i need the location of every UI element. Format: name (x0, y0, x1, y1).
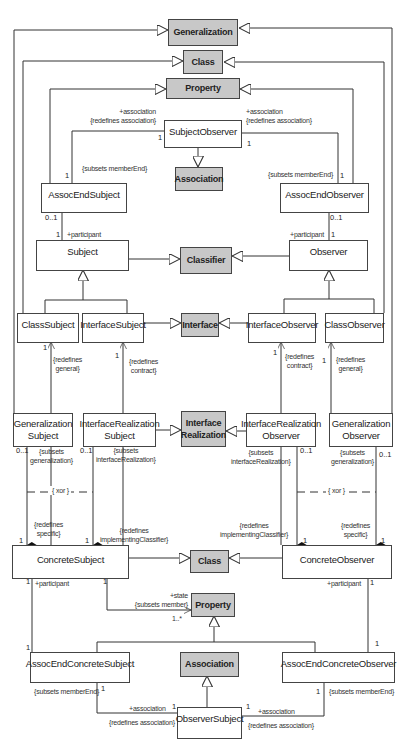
uml-observer-pattern-diagram: Generalization Class Property SubjectObs… (0, 0, 404, 753)
mult-assoc-end-subject-top: 1 (65, 171, 69, 180)
mult-concrete-observer-participant: 1 (370, 578, 374, 587)
mult-concrete-subject-state: 1 (103, 577, 107, 586)
mult-class-observer: 1 (322, 356, 326, 365)
label-assoc-right-top: +association {redefines association} (246, 107, 312, 125)
label-assoc-bottom-right-role: +association (258, 707, 295, 716)
class-class-observer[interactable]: ClassObserver (325, 313, 384, 343)
label-subsets-member-end-right: {subsets memberEnd} (268, 170, 333, 179)
mult-assoc-end-concrete-subject-bottom: 1 (101, 684, 105, 693)
mult-concrete-observer-impl: 1 (303, 536, 307, 545)
label-subsets-generalization-right: {subsets generalization} (331, 448, 374, 466)
mult-observer-subject-right: 1 (246, 702, 250, 711)
mult-observer-participant: 1 (331, 230, 335, 239)
label-assoc-bottom-left-constraint: {redefines association} (109, 718, 175, 727)
label-redefines-impl-left: {redefines implementingClassifier} (100, 526, 168, 544)
class-interface-realization-observer[interactable]: InterfaceRealization Observer (246, 413, 316, 447)
mult-subject-observer-left: 1 (158, 133, 162, 142)
class-class-mid[interactable]: Class (190, 550, 229, 573)
mult-generalization-observer: 0..1 (379, 450, 392, 459)
mult-concrete-subject-specific: 1 (19, 536, 23, 545)
class-subject-observer[interactable]: SubjectObserver (164, 120, 242, 148)
label-redefines-impl-right: {redefines implementingClassifier} (220, 521, 288, 539)
class-interface[interactable]: Interface (181, 313, 219, 337)
mult-interface-realization-subject: 0..1 (80, 446, 93, 455)
label-participant-left: +participant (67, 230, 101, 239)
label-participant-bottom-left: +participant (35, 579, 69, 588)
class-observer[interactable]: Observer (289, 240, 368, 271)
class-interface-realization-subject[interactable]: InterfaceRealization Subject (83, 413, 156, 447)
mult-assoc-end-concrete-observer-top: 1 (375, 639, 379, 648)
mult-generalization-subject: 0..1 (16, 446, 29, 455)
mult-interface-realization-observer: 0..1 (300, 446, 313, 455)
mult-concrete-subject-participant: 1 (26, 577, 30, 586)
mult-interface-subject: 1 (115, 351, 119, 360)
class-generalization-subject[interactable]: Generalization Subject (13, 413, 73, 447)
class-observer-subject[interactable]: ObserverSubject (177, 707, 242, 739)
label-redefines-specific-right: {redefines specific} (341, 521, 370, 539)
label-participant-right: +participant (290, 230, 324, 239)
class-interface-realization[interactable]: Interface Realization (181, 411, 226, 447)
mult-interface-observer: 1 (273, 348, 277, 357)
label-subsets-member-end-bottom-right: {subsets memberEnd} (329, 687, 394, 696)
class-association-bottom[interactable]: Association (180, 652, 239, 677)
class-subject[interactable]: Subject (36, 240, 129, 271)
label-redefines-contract-left: {redefines contract} (129, 357, 158, 375)
mult-concrete-subject-impl: 1 (85, 536, 89, 545)
label-state: +state {subsets member} (134, 591, 188, 609)
class-assoc-end-concrete-subject[interactable]: AssocEndConcreteSubject (30, 652, 130, 683)
label-state-multiplicity: 1..* (172, 614, 182, 623)
class-property-bottom[interactable]: Property (191, 593, 235, 617)
connector-lines (0, 0, 404, 753)
class-property-top[interactable]: Property (166, 78, 240, 99)
mult-assoc-end-observer-top: 1 (340, 171, 344, 180)
class-assoc-end-concrete-observer[interactable]: AssocEndConcreteObserver (282, 652, 395, 683)
label-subsets-member-end-left: {subsets memberEnd} (82, 164, 147, 173)
label-xor-left: { xor } (50, 486, 71, 495)
class-association-top[interactable]: Association (175, 167, 223, 191)
mult-subject-observer-right: 1 (247, 139, 251, 148)
class-classifier[interactable]: Classifier (180, 247, 232, 274)
class-concrete-subject[interactable]: ConcreteSubject (12, 545, 129, 579)
label-participant-bottom-right: +participant (327, 579, 361, 588)
label-redefines-general-right: {redefines general} (336, 355, 365, 373)
mult-observer-subject-left: 1 (172, 702, 176, 711)
mult-concrete-observer-specific: 1 (381, 536, 385, 545)
mult-assoc-end-concrete-subject-top: 1 (26, 643, 30, 652)
class-assoc-end-subject[interactable]: AssocEndSubject (41, 183, 127, 213)
class-generalization-observer[interactable]: Generalization Observer (329, 413, 393, 447)
class-class-top[interactable]: Class (183, 50, 223, 74)
mult-subject-participant: 1 (56, 230, 60, 239)
mult-class-subject: 1 (43, 343, 47, 352)
class-concrete-observer[interactable]: ConcreteObserver (282, 545, 392, 579)
label-assoc-left-top: +association {redefines association} (84, 107, 156, 125)
label-assoc-bottom-left-role: +association (129, 704, 166, 713)
label-subsets-generalization-left: {subsets generalization} (30, 447, 73, 465)
class-interface-observer[interactable]: InterfaceObserver (248, 313, 316, 343)
mult-assoc-end-concrete-observer-bottom: 1 (316, 687, 320, 696)
label-subsets-member-end-bottom-left: {subsets memberEnd} (34, 687, 99, 696)
label-subsets-interface-realization-left: {subsets interfaceRealization} (96, 446, 156, 464)
mult-assoc-end-observer-bottom: 0..1 (330, 213, 343, 222)
label-redefines-contract-right: {redefines contract} (285, 352, 314, 370)
label-assoc-bottom-right-constraint: {redefines association} (248, 721, 314, 730)
label-redefines-general-left: {redefines general} (53, 355, 82, 373)
label-xor-right: { xor } (326, 486, 347, 495)
class-class-subject[interactable]: ClassSubject (17, 313, 79, 343)
class-assoc-end-observer[interactable]: AssocEndObserver (280, 183, 369, 213)
label-redefines-specific-left: {redefines specific} (34, 520, 63, 538)
class-interface-subject[interactable]: InterfaceSubject (82, 313, 144, 343)
label-subsets-interface-realization-right: {subsets interfaceRealization} (231, 448, 291, 466)
class-generalization[interactable]: Generalization (168, 19, 238, 46)
mult-assoc-end-subject-bottom: 0..1 (45, 213, 58, 222)
